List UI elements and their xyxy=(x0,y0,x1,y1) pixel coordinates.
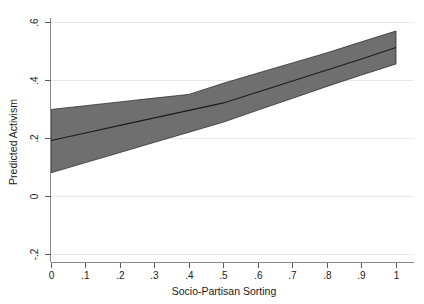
x-tick-label-0: 0 xyxy=(49,270,55,281)
y-tick-label-0: 0 xyxy=(29,193,40,199)
x-tick-label-0.8: .8 xyxy=(323,270,332,281)
x-tick-label-0.2: .2 xyxy=(116,270,125,281)
x-axis-title: Socio-Partisan Sorting xyxy=(172,285,277,297)
predicted-activism-chart: .6 .4 .2 0 -.2 0 .1 .2 .3 .4 .5 .6 .7 .8… xyxy=(0,0,424,304)
x-tick-label-0.4: .4 xyxy=(185,270,194,281)
y-tick-label-0.6: .6 xyxy=(29,18,40,27)
x-tick-label-0.7: .7 xyxy=(288,270,297,281)
y-tick-label-0.4: .4 xyxy=(29,76,40,85)
x-tick-label-0.3: .3 xyxy=(150,270,159,281)
x-tick-label-1: 1 xyxy=(394,270,400,281)
x-tick-label-0.6: .6 xyxy=(254,270,263,281)
chart-figure: .6 .4 .2 0 -.2 0 .1 .2 .3 .4 .5 .6 .7 .8… xyxy=(0,0,424,304)
y-tick-label-0.2: .2 xyxy=(29,134,40,143)
x-tick-label-0.9: .9 xyxy=(357,270,366,281)
x-tick-label-0.1: .1 xyxy=(81,270,90,281)
x-tick-label-0.5: .5 xyxy=(219,270,228,281)
y-tick-label-neg0.2: -.2 xyxy=(29,248,40,260)
y-axis-title: Predicted Activism xyxy=(7,99,19,185)
